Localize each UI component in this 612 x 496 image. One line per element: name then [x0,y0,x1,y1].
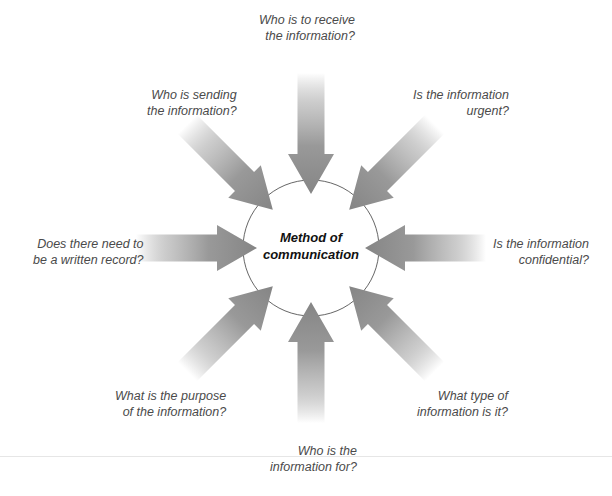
question-right-line1: Is the information [493,236,589,252]
arrow-right-icon [365,225,486,271]
question-top-right-line1: Is the information [413,87,509,103]
center-label-line1: Method of [251,229,371,246]
question-left-line2: be a written record? [33,252,143,268]
center-label-line2: communication [251,246,371,263]
question-bottom-line2: information for? [270,459,357,475]
question-bottom-left-line2: of the information? [115,404,226,420]
question-top-left-line1: Who is sending [147,87,237,103]
question-left: Does there need to be a written record? [33,236,143,268]
question-right-line2: confidential? [493,252,589,268]
question-bottom-right: What type of information is it? [417,388,508,420]
question-top-left: Who is sending the information? [147,87,237,119]
question-bottom-right-line2: information is it? [417,404,508,420]
question-right: Is the information confidential? [493,236,589,268]
question-left-line1: Does there need to [33,236,143,252]
arrow-top-icon [288,73,334,194]
arrow-bottom-icon [288,302,334,423]
question-top-right-line2: urgent? [413,103,509,119]
question-bottom-right-line1: What type of [417,388,508,404]
question-top-line1: Who is to receive [259,12,355,28]
arrow-top-left-icon [171,108,289,226]
communication-method-diagram: Method of communication Who is to receiv… [0,0,612,496]
question-top-line2: the information? [259,28,355,44]
question-top-right: Is the information urgent? [413,87,509,119]
center-label: Method of communication [251,229,371,263]
question-top-left-line2: the information? [147,103,237,119]
arrow-bottom-right-icon [333,270,451,388]
question-bottom-left-line1: What is the purpose [115,388,226,404]
question-bottom: Who is the information for? [270,443,357,475]
question-bottom-left: What is the purpose of the information? [115,388,226,420]
arrow-top-right-icon [333,108,451,226]
arrow-left-icon [136,225,257,271]
question-top: Who is to receive the information? [259,12,355,44]
arrow-bottom-left-icon [171,270,289,388]
horizontal-divider [0,456,612,457]
